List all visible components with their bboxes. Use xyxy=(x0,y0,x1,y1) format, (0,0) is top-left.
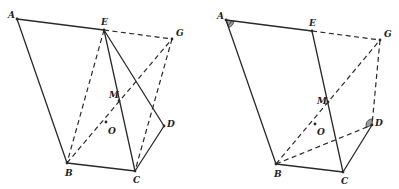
point-D xyxy=(163,125,166,128)
segment-AE xyxy=(226,20,312,31)
dashed-segment-EG xyxy=(312,31,380,40)
dashed-segment-EB xyxy=(67,30,104,163)
point-B xyxy=(275,163,278,166)
segment-BC xyxy=(276,164,343,172)
segment-AE xyxy=(17,19,104,30)
point-O xyxy=(105,121,108,124)
point-label-D: D xyxy=(166,119,175,129)
point-label-M: M xyxy=(108,90,120,100)
segment-BC xyxy=(67,163,135,171)
dashed-segment-GC xyxy=(135,39,172,171)
point-label-M: M xyxy=(316,96,328,106)
point-label-B: B xyxy=(64,168,73,178)
point-label-G: G xyxy=(176,28,184,38)
point-C xyxy=(342,171,345,174)
point-label-C: C xyxy=(133,175,141,185)
point-A xyxy=(16,18,19,21)
figure-right: AEGMODBC xyxy=(216,11,392,186)
segment-AB xyxy=(17,19,67,163)
segment-CD xyxy=(135,126,164,171)
point-D xyxy=(371,124,374,127)
point-M xyxy=(118,100,121,103)
point-B xyxy=(66,162,69,165)
figure-left: AEGMODBC xyxy=(7,10,184,185)
dashed-segment-EG xyxy=(104,30,172,39)
point-label-O: O xyxy=(317,127,325,137)
point-label-G: G xyxy=(384,29,392,39)
point-label-O: O xyxy=(108,126,116,136)
segment-AB xyxy=(226,20,276,164)
point-A xyxy=(225,19,228,22)
point-label-E: E xyxy=(100,17,108,27)
point-label-E: E xyxy=(308,18,316,28)
segment-CD xyxy=(343,125,372,172)
point-label-A: A xyxy=(216,11,224,21)
point-O xyxy=(314,123,317,126)
point-label-B: B xyxy=(273,169,282,179)
geometry-diagram: AEGMODBC AEGMODBC xyxy=(0,0,399,189)
diagram-svg: AEGMODBC AEGMODBC xyxy=(0,0,399,189)
point-label-D: D xyxy=(374,118,383,128)
point-label-A: A xyxy=(7,10,15,20)
point-E xyxy=(103,29,106,32)
point-C xyxy=(134,170,137,173)
point-G xyxy=(379,39,382,42)
point-G xyxy=(171,38,174,41)
dashed-segment-GD xyxy=(372,40,380,125)
point-label-C: C xyxy=(341,176,349,186)
point-E xyxy=(311,30,314,33)
segment-DE xyxy=(104,30,164,126)
point-M xyxy=(327,101,330,104)
